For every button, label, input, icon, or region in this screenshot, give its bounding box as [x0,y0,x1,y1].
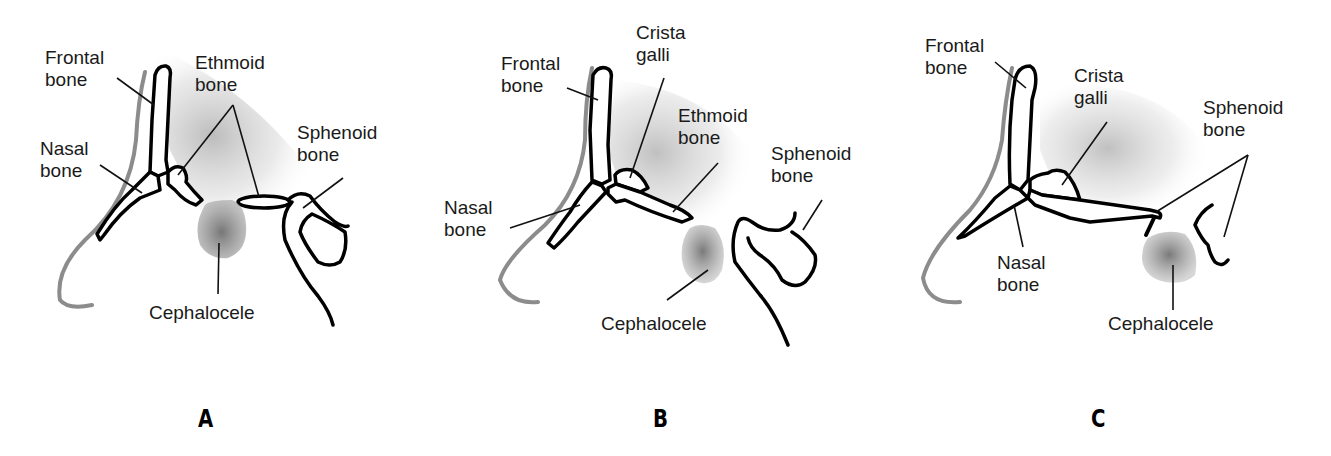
sphenoid-tip-shape [1146,218,1154,235]
cephalocele-mass [197,200,246,258]
frontal-bone-shape [150,66,171,176]
label-frontal-bone: Frontal bone [45,47,104,91]
label-sphenoid-bone: Sphenoid bone [1203,97,1283,141]
label-frontal-bone: Frontal bone [925,35,984,79]
sphenoid-bone-shape [284,194,348,325]
frontal-bone-shape [590,68,611,184]
panel-letter-c: C [1091,405,1105,433]
label-cephalocele: Cephalocele [149,302,255,324]
label-ethmoid-bone: Ethmoid bone [678,105,748,149]
label-sphenoid-bone: Sphenoid bone [297,122,377,166]
label-nasal-bone: Nasal bone [40,138,89,182]
label-crista-galli: Crista galli [1074,65,1124,109]
label-frontal-bone: Frontal bone [501,53,560,97]
sphenoid-bone-shape [1195,205,1228,265]
ethmoid-plate-shape [238,196,290,208]
label-cephalocele: Cephalocele [1108,313,1214,335]
skin-profile-line [500,68,592,302]
label-cephalocele: Cephalocele [601,313,707,335]
nasal-bone-shape [97,172,160,240]
label-sphenoid-bone: Sphenoid bone [771,143,851,187]
panel-c: Frontal bone Crista galli Sphenoid bone … [890,0,1331,456]
label-nasal-bone: Nasal bone [444,197,493,241]
sphenoid-bone-shape [733,213,815,345]
panel-letter-b: B [653,405,668,433]
label-ethmoid-bone: Ethmoid bone [195,52,265,96]
cephalocele-mass [1142,232,1196,283]
label-crista-galli: Crista galli [636,22,686,66]
panel-b-drawing [430,0,890,456]
label-nasal-bone: Nasal bone [997,252,1046,296]
panel-a: Frontal bone Ethmoid bone Nasal bone Sph… [0,0,440,456]
panel-b: Frontal bone Crista galli Ethmoid bone N… [430,0,890,456]
panel-letter-a: A [198,405,213,433]
cephalocele-anatomy-figure: Frontal bone Ethmoid bone Nasal bone Sph… [0,0,1331,456]
